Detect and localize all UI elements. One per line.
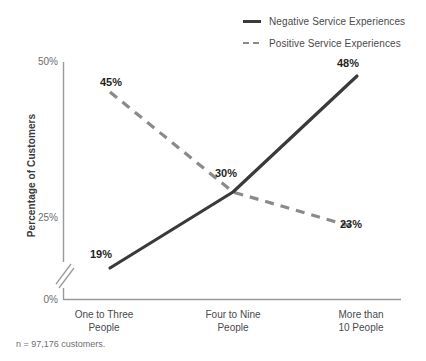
- x-tick-label-four-to-nine-people: Four to Nine People: [178, 308, 288, 334]
- x-tick-line1: Four to Nine: [178, 308, 288, 321]
- chart-legend: Negative Service Experiences Positive Se…: [243, 10, 426, 54]
- data-label-negative-one-to-three: 19%: [90, 248, 112, 260]
- x-tick-line2: People: [178, 321, 288, 334]
- x-tick-label-one-to-three-people: One to Three People: [49, 308, 159, 334]
- legend-solid-line-icon: [243, 15, 261, 27]
- legend-item-negative: Negative Service Experiences: [243, 10, 426, 32]
- legend-label-negative: Negative Service Experiences: [269, 16, 405, 27]
- data-label-crossing-four-to-nine: 30%: [215, 167, 237, 179]
- chart-plot-area: [0, 0, 426, 361]
- y-tick-label-25: 25%: [20, 212, 58, 223]
- x-tick-line1: More than: [306, 308, 416, 321]
- y-tick-label-50: 50%: [20, 56, 58, 67]
- data-label-positive-more-than-10: 23%: [340, 218, 362, 230]
- legend-item-positive: Positive Service Experiences: [243, 32, 426, 54]
- y-axis-title: Percentage of Customers: [26, 96, 37, 256]
- legend-dashed-line-icon: [243, 37, 261, 49]
- data-label-negative-more-than-10: 48%: [337, 57, 359, 69]
- x-tick-label-more-than-10-people: More than 10 People: [306, 308, 416, 334]
- legend-label-positive: Positive Service Experiences: [269, 38, 401, 49]
- y-tick-label-0: 0%: [20, 294, 58, 305]
- x-tick-line1: One to Three: [49, 308, 159, 321]
- x-tick-line2: People: [49, 321, 159, 334]
- data-label-positive-one-to-three: 45%: [100, 76, 122, 88]
- line-chart: Negative Service Experiences Positive Se…: [0, 0, 426, 361]
- x-tick-line2: 10 People: [306, 321, 416, 334]
- chart-footnote: n = 97,176 customers.: [16, 339, 105, 349]
